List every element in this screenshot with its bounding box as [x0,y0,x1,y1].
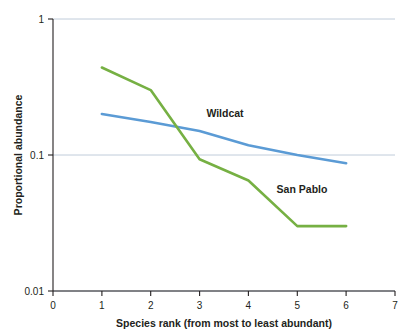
y-tick-label-1: 1 [38,14,44,25]
y-tick-label-0_01: 0.01 [25,286,45,297]
abundance-rank-chart: 1 0.1 0.01 0 1 2 3 4 5 6 7 Proportional … [0,0,408,336]
series-label-wildcat: Wildcat [206,107,244,119]
x-tick-label-7: 7 [392,300,398,311]
y-tick-label-0_1: 0.1 [30,150,44,161]
chart-container: 1 0.1 0.01 0 1 2 3 4 5 6 7 Proportional … [0,0,408,336]
series-line-wildcat [102,114,346,163]
series-label-san-pablo: San Pablo [277,183,328,195]
x-axis-title: Species rank (from most to least abundan… [116,317,332,329]
series-line-san-pablo [102,67,346,226]
x-tick-label-3: 3 [197,300,203,311]
y-axis-title: Proportional abundance [12,94,24,215]
x-tick-label-5: 5 [295,300,301,311]
x-tick-label-0: 0 [50,300,56,311]
x-tick-label-4: 4 [246,300,252,311]
x-tick-label-1: 1 [99,300,105,311]
x-tick-label-6: 6 [343,300,349,311]
x-tick-label-2: 2 [148,300,154,311]
